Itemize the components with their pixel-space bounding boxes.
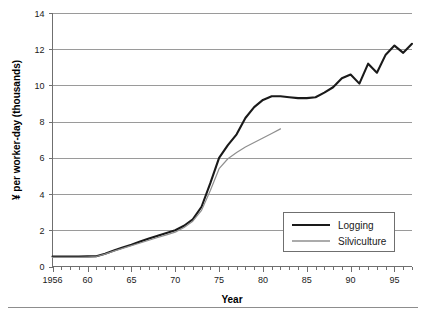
gridlines-group bbox=[53, 14, 413, 231]
y-tick-label: 6 bbox=[39, 153, 44, 163]
x-axis-title: Year bbox=[221, 294, 242, 305]
x-tick-label: 60 bbox=[83, 275, 93, 285]
x-tick-label: 75 bbox=[214, 275, 224, 285]
x-tick-label: 85 bbox=[302, 275, 312, 285]
y-tick-label: 0 bbox=[39, 262, 44, 272]
x-tick-labels-group: 19566065707580859095 bbox=[42, 275, 399, 285]
x-tick-label: 95 bbox=[389, 275, 399, 285]
y-tick-label: 12 bbox=[34, 45, 44, 55]
y-tick-label: 14 bbox=[34, 9, 44, 19]
footer-divider bbox=[8, 307, 418, 308]
y-axis-title: ¥ per worker-day (thousands) bbox=[11, 60, 22, 200]
legend-label-logging: Logging bbox=[338, 220, 374, 231]
x-tick-label: 1956 bbox=[42, 275, 62, 285]
chart-legend: Logging Silviculture bbox=[284, 213, 395, 252]
y-tick-label: 10 bbox=[34, 81, 44, 91]
chart-figure: 02468101214 19566065707580859095 ¥ per w… bbox=[0, 0, 426, 318]
x-tick-label: 70 bbox=[170, 275, 180, 285]
x-tick-label: 80 bbox=[258, 275, 268, 285]
y-tick-labels-group: 02468101214 bbox=[34, 9, 44, 273]
x-tick-label: 90 bbox=[346, 275, 356, 285]
y-tick-label: 4 bbox=[39, 190, 44, 200]
x-tick-label: 65 bbox=[126, 275, 136, 285]
y-tick-label: 2 bbox=[39, 226, 44, 236]
y-tick-label: 8 bbox=[39, 117, 44, 127]
legend-label-silviculture: Silviculture bbox=[338, 236, 387, 247]
line-chart: 02468101214 19566065707580859095 ¥ per w… bbox=[0, 0, 426, 318]
series-line-silviculture bbox=[53, 129, 281, 258]
